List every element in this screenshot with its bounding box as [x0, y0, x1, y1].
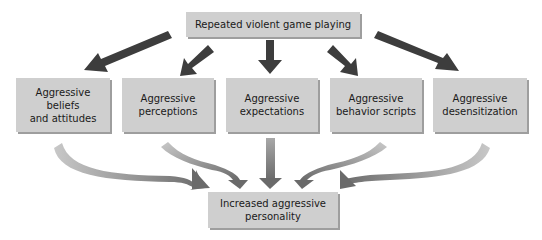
bottom-arrow-5	[340, 143, 490, 189]
middle-box-expectations: Aggressive expectations	[226, 78, 318, 132]
middle-box-behavior-scripts: Aggressive behavior scripts	[330, 78, 422, 132]
top-box-repeated-violent-game-playing: Repeated violent game playing	[186, 12, 360, 37]
bottom-arrow-1	[54, 143, 210, 190]
middle-box-perceptions: Aggressive perceptions	[122, 78, 214, 132]
top-arrow-3	[258, 40, 282, 74]
bottom-arrow-3	[259, 138, 282, 189]
middle-box-label: Aggressive behavior scripts	[336, 92, 416, 118]
bottom-box-increased-aggressive-personality: Increased aggressive personality	[208, 192, 338, 228]
top-box-label: Repeated violent game playing	[195, 18, 351, 31]
bottom-box-label: Increased aggressive personality	[220, 197, 326, 223]
top-arrow-5	[374, 31, 459, 71]
middle-box-beliefs-attitudes: Aggressive beliefs and attitudes	[16, 78, 110, 132]
top-arrow-4	[327, 45, 358, 76]
middle-box-label: Aggressive perceptions	[139, 92, 198, 118]
middle-box-desensitization: Aggressive desensitization	[433, 78, 527, 132]
middle-box-label: Aggressive beliefs and attitudes	[20, 86, 106, 125]
top-arrow-2	[180, 45, 214, 76]
middle-box-label: Aggressive desensitization	[442, 92, 517, 118]
top-arrow-1	[84, 31, 172, 72]
middle-box-label: Aggressive expectations	[240, 92, 304, 118]
